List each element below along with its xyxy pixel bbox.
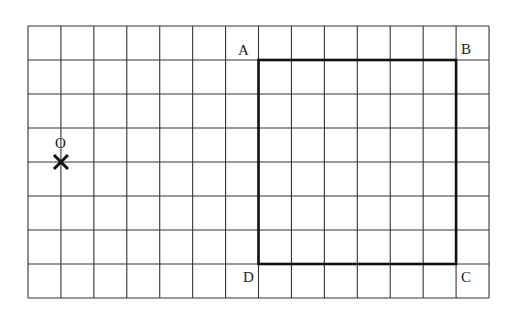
label-d: D	[243, 270, 254, 285]
label-b: B	[461, 42, 471, 57]
label-a: A	[238, 43, 249, 58]
label-c: C	[461, 270, 471, 285]
label-o: O	[55, 136, 66, 151]
grid-diagram	[0, 0, 517, 318]
